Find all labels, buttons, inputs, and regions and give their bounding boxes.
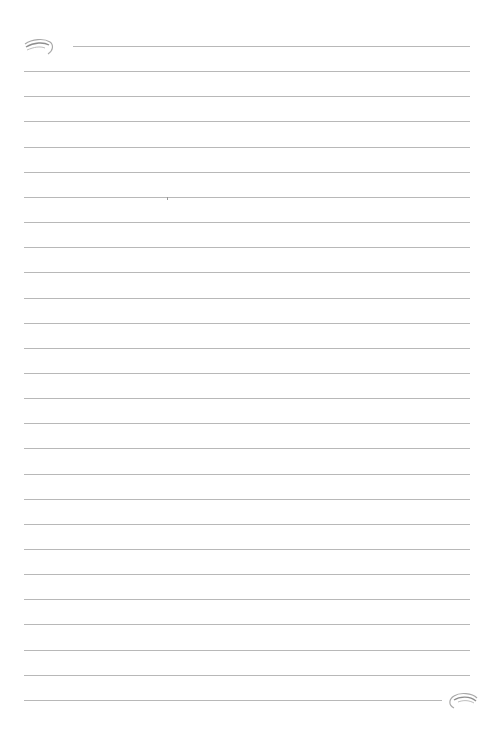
ruled-line	[24, 298, 470, 299]
ruled-line	[24, 398, 470, 399]
ruled-line	[24, 624, 470, 625]
ruled-line	[24, 448, 470, 449]
paper-speck	[167, 197, 168, 200]
ruled-line	[24, 524, 470, 525]
ruled-line	[24, 197, 470, 198]
ruled-line	[24, 373, 470, 374]
ruled-line	[24, 474, 470, 475]
ruled-line	[24, 423, 470, 424]
ruled-line	[24, 272, 470, 273]
ruled-line	[24, 71, 470, 72]
ruled-line	[24, 348, 470, 349]
ruled-line	[24, 650, 470, 651]
ruled-line	[24, 675, 470, 676]
ruled-line	[24, 172, 470, 173]
ruled-line	[24, 574, 470, 575]
ruled-line	[24, 599, 470, 600]
bottom-right-swirl-icon	[444, 690, 480, 714]
ruled-line	[24, 499, 470, 500]
ruled-line	[24, 247, 470, 248]
ruled-line	[24, 549, 470, 550]
lined-paper-page	[0, 0, 496, 737]
ruled-line	[24, 96, 470, 97]
top-left-swirl-icon	[22, 36, 58, 60]
ruled-line	[24, 700, 442, 701]
ruled-line	[24, 323, 470, 324]
ruled-line	[24, 222, 470, 223]
ruled-line	[24, 147, 470, 148]
ruled-line	[73, 46, 470, 47]
ruled-line	[24, 121, 470, 122]
